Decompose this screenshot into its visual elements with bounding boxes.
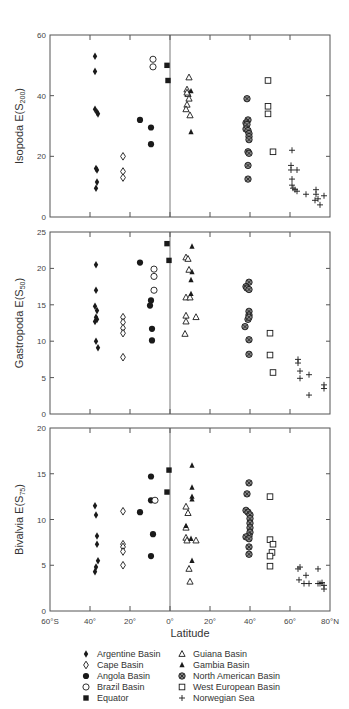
legend-marker-icon xyxy=(179,695,185,701)
series-cape-basin xyxy=(121,507,126,569)
data-point xyxy=(312,197,318,203)
data-point xyxy=(321,586,327,592)
data-point xyxy=(185,510,191,516)
y-axis-title: Isopoda E(S200) xyxy=(13,88,26,164)
data-point xyxy=(306,392,312,398)
y-tick-label: 20 xyxy=(37,264,46,273)
series-argentine-basin xyxy=(93,52,100,192)
x-tick-label: 20° xyxy=(124,617,136,626)
legend-item: West European Basin xyxy=(179,682,280,692)
data-point xyxy=(183,318,189,324)
data-point xyxy=(152,497,158,503)
legend-label: North American Basin xyxy=(193,671,280,681)
data-point xyxy=(150,56,156,62)
y-tick-label: 40 xyxy=(37,92,46,101)
series-equator xyxy=(164,241,171,263)
data-point xyxy=(315,566,321,572)
data-point xyxy=(270,541,276,547)
data-point xyxy=(246,314,252,320)
data-point xyxy=(246,150,252,156)
legend-marker-icon xyxy=(83,695,88,700)
data-point xyxy=(148,141,154,147)
data-point xyxy=(244,96,250,102)
series-west-european-basin xyxy=(267,494,276,569)
data-point xyxy=(149,326,155,332)
data-point xyxy=(295,360,301,366)
data-point xyxy=(150,64,156,70)
data-point xyxy=(189,496,194,501)
legend-marker-icon xyxy=(179,662,184,667)
legend-label: Cape Basin xyxy=(97,660,144,670)
data-point xyxy=(95,540,99,548)
y-tick-label: 0 xyxy=(42,410,47,419)
legend: Argentine BasinCape BasinAngola BasinBra… xyxy=(83,649,280,703)
y-tick-label: 15 xyxy=(37,470,46,479)
data-point xyxy=(296,577,302,583)
data-point xyxy=(95,178,99,186)
data-point xyxy=(148,553,154,559)
data-point xyxy=(270,370,276,376)
data-point xyxy=(187,578,193,584)
x-tick-label: 60° xyxy=(284,617,296,626)
data-point xyxy=(150,531,156,537)
data-point xyxy=(121,561,126,569)
data-point xyxy=(265,103,271,109)
data-point xyxy=(267,352,273,358)
data-point xyxy=(96,344,100,352)
y-tick-label: 0 xyxy=(42,607,47,616)
series-west-european-basin xyxy=(267,330,276,375)
legend-marker-icon xyxy=(179,684,185,690)
data-point xyxy=(186,74,192,80)
data-point xyxy=(303,572,309,578)
y-tick-label: 0 xyxy=(42,213,47,222)
x-tick-label: 40° xyxy=(244,617,256,626)
y-axis-title: Bivalvia E(S75) xyxy=(13,484,26,555)
series-brazil-basin xyxy=(152,497,158,503)
data-point xyxy=(137,117,143,123)
data-point xyxy=(183,503,189,509)
data-point xyxy=(297,368,303,374)
data-point xyxy=(148,473,154,479)
legend-marker-icon xyxy=(83,673,89,679)
legend-marker-icon xyxy=(179,651,185,657)
data-point xyxy=(164,489,169,494)
data-point xyxy=(270,149,276,155)
data-point xyxy=(166,467,171,472)
data-point xyxy=(121,507,126,515)
data-point xyxy=(289,182,295,188)
data-point xyxy=(182,331,188,337)
y-tick-label: 10 xyxy=(37,516,46,525)
legend-item: Cape Basin xyxy=(84,660,144,670)
series-norwegian-sea xyxy=(295,564,327,592)
data-point xyxy=(267,330,273,336)
data-point xyxy=(96,557,100,565)
data-point xyxy=(294,167,300,173)
data-point xyxy=(306,581,312,587)
data-point xyxy=(245,176,251,182)
series-brazil-basin xyxy=(150,56,156,70)
data-point xyxy=(267,563,273,569)
legend-label: Angola Basin xyxy=(97,671,150,681)
data-point xyxy=(242,323,248,329)
data-point xyxy=(246,551,252,557)
y-tick-label: 60 xyxy=(37,31,46,40)
series-angola-basin xyxy=(137,117,154,147)
data-point xyxy=(148,124,154,130)
data-point xyxy=(246,536,252,542)
data-point xyxy=(189,484,194,489)
data-point xyxy=(289,176,295,182)
legend-item: Norwegian Sea xyxy=(179,693,255,703)
legend-item: Brazil Basin xyxy=(83,682,145,692)
data-point xyxy=(267,494,273,500)
legend-marker-icon xyxy=(84,661,89,669)
data-point xyxy=(193,314,199,320)
legend-item: Guiana Basin xyxy=(179,649,247,659)
legend-item: North American Basin xyxy=(179,671,280,681)
data-point xyxy=(186,566,192,572)
data-point xyxy=(121,353,126,361)
x-tick-label: 20° xyxy=(204,617,216,626)
data-point xyxy=(289,147,295,153)
legend-item: Argentine Basin xyxy=(84,649,161,659)
data-point xyxy=(94,511,98,519)
x-tick-label: 80°N xyxy=(321,617,339,626)
